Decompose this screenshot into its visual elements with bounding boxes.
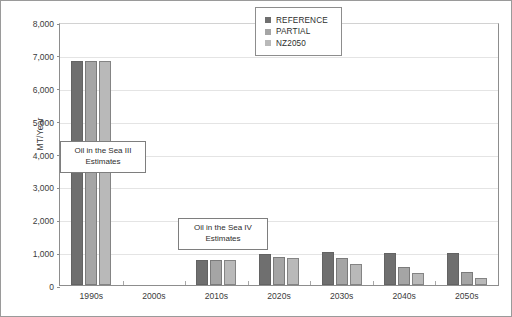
x-tick-label-2020s: 2020s xyxy=(248,291,311,301)
bar-nz2050-1990s[interactable] xyxy=(99,61,111,285)
annotation-line-2: Estimates xyxy=(66,157,140,168)
x-axis-tick-mark xyxy=(123,281,124,285)
y-tick-label: 8,000 xyxy=(33,19,54,29)
legend-label-partial: PARTIAL xyxy=(276,27,310,36)
legend-item-reference[interactable]: REFERENCE xyxy=(265,16,328,25)
legend-item-nz2050[interactable]: NZ2050 xyxy=(265,39,328,48)
x-tick-label-2000s: 2000s xyxy=(123,291,186,301)
x-tick-label-2030s: 2030s xyxy=(310,291,373,301)
bar-reference-2020s[interactable] xyxy=(259,254,271,285)
y-tick-label: 0 xyxy=(49,282,54,292)
y-tick-label: 3,000 xyxy=(33,183,54,193)
bar-reference-2010s[interactable] xyxy=(196,260,208,285)
y-tick-label: 4,000 xyxy=(33,151,54,161)
x-tick-label-1990s: 1990s xyxy=(60,291,123,301)
bar-nz2050-2030s[interactable] xyxy=(350,264,362,285)
y-tick-label: 6,000 xyxy=(33,85,54,95)
y-tick-label: 7,000 xyxy=(33,52,54,62)
x-axis-tick-mark xyxy=(310,281,311,285)
chart-frame: MT/Year 8,0007,0006,0005,0004,0003,0002,… xyxy=(0,0,512,317)
chart-legend[interactable]: REFERENCE PARTIAL NZ2050 xyxy=(255,7,342,56)
x-tick-label-2050s: 2050s xyxy=(435,291,498,301)
bar-group-2050s: 2050s xyxy=(435,24,498,285)
bar-nz2050-2010s[interactable] xyxy=(224,260,236,285)
annotation-oil-in-the-sea-iii: Oil in the Sea III Estimates xyxy=(60,141,146,173)
x-axis-tick-mark xyxy=(248,281,249,285)
legend-swatch-reference xyxy=(265,17,271,23)
y-tick-mark xyxy=(57,287,60,288)
legend-swatch-partial xyxy=(265,29,271,35)
legend-swatch-nz2050 xyxy=(265,40,271,46)
bar-partial-2040s[interactable] xyxy=(398,267,410,285)
x-tick-label-2040s: 2040s xyxy=(373,291,436,301)
bar-group-2030s: 2030s xyxy=(310,24,373,285)
bar-partial-2030s[interactable] xyxy=(336,258,348,285)
bar-reference-2030s[interactable] xyxy=(322,252,334,285)
y-tick-label: 5,000 xyxy=(33,118,54,128)
annotation-line-1: Oil in the Sea III xyxy=(66,146,140,157)
annotation-oil-in-the-sea-iv: Oil in the Sea IV Estimates xyxy=(178,218,268,250)
bar-reference-2040s[interactable] xyxy=(384,253,396,285)
x-axis-tick-mark xyxy=(435,281,436,285)
annotation-line-1: Oil in the Sea IV xyxy=(184,223,262,234)
x-axis-tick-mark xyxy=(185,281,186,285)
annotation-line-2: Estimates xyxy=(184,234,262,245)
legend-label-reference: REFERENCE xyxy=(276,16,328,25)
y-tick-label: 1,000 xyxy=(33,249,54,259)
bar-partial-2050s[interactable] xyxy=(461,272,473,285)
bar-partial-2020s[interactable] xyxy=(273,257,285,285)
x-tick-label-2010s: 2010s xyxy=(185,291,248,301)
bar-nz2050-2040s[interactable] xyxy=(412,273,424,285)
bar-nz2050-2020s[interactable] xyxy=(287,258,299,285)
bar-partial-2010s[interactable] xyxy=(210,260,222,285)
bar-reference-1990s[interactable] xyxy=(71,61,83,285)
bar-reference-2050s[interactable] xyxy=(447,253,459,285)
legend-item-partial[interactable]: PARTIAL xyxy=(265,27,328,36)
bar-group-2040s: 2040s xyxy=(373,24,436,285)
bar-partial-1990s[interactable] xyxy=(85,61,97,285)
bar-nz2050-2050s[interactable] xyxy=(475,278,487,285)
y-tick-label: 2,000 xyxy=(33,216,54,226)
legend-label-nz2050: NZ2050 xyxy=(276,39,306,48)
x-axis-tick-mark xyxy=(373,281,374,285)
